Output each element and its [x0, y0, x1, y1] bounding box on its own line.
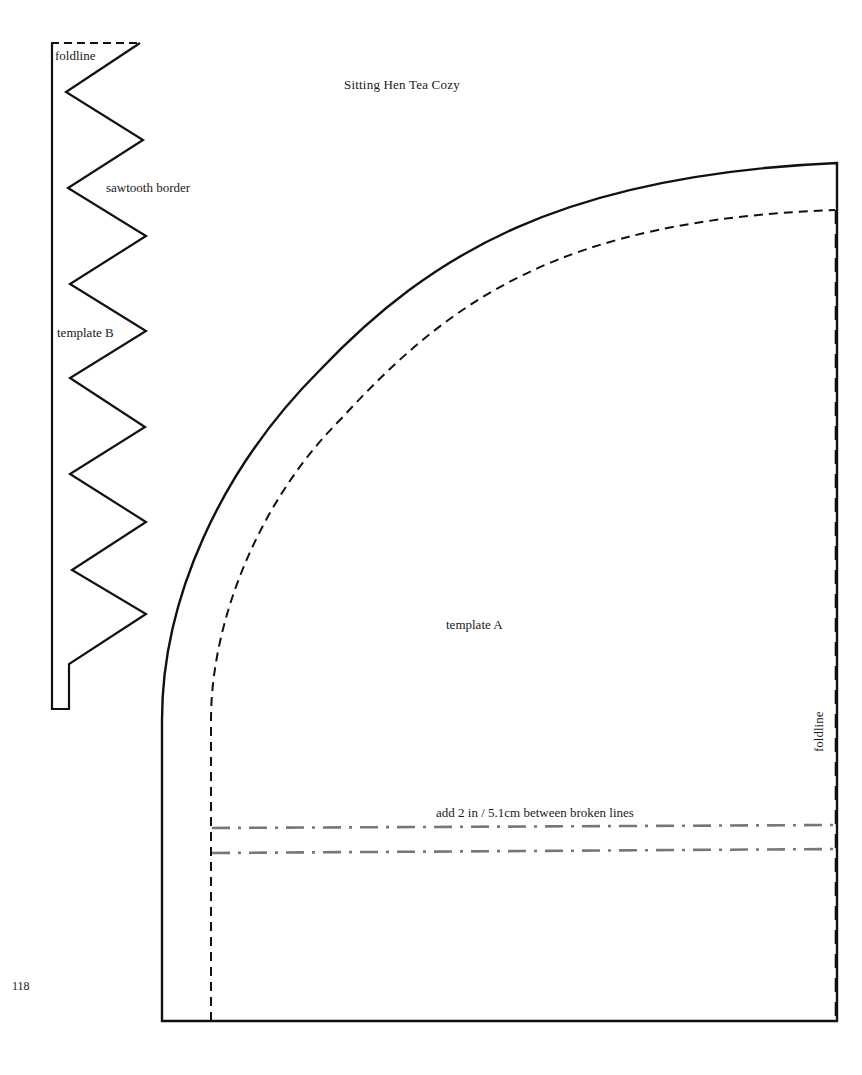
template-a-label: template A: [446, 618, 503, 631]
sewing-pattern-drawing: [0, 0, 862, 1075]
page-title: Sitting Hen Tea Cozy: [344, 78, 460, 91]
sawtooth-border-label: sawtooth border: [106, 181, 190, 194]
broken-line-lower: [212, 849, 836, 853]
template-b-label: template B: [57, 326, 114, 339]
template-a-shape: [162, 163, 837, 1021]
template-a-foldline-label: foldline: [812, 712, 825, 752]
template-b-outline: [52, 43, 146, 709]
broken-line-upper: [212, 825, 836, 828]
template-a-seam-line: [211, 210, 835, 1021]
page-number: 118: [12, 980, 30, 992]
template-b-shape: [51, 43, 146, 709]
broken-lines-instruction: add 2 in / 5.1cm between broken lines: [436, 806, 634, 819]
template-b-foldline-label: foldline: [55, 49, 95, 62]
broken-lines: [212, 825, 836, 853]
template-a-cut-line: [162, 163, 837, 1021]
